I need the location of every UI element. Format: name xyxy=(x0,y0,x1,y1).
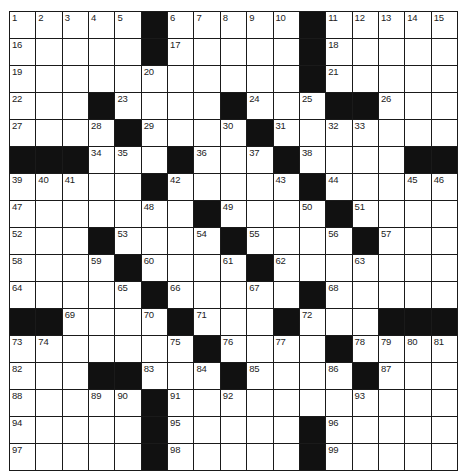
grid-cell[interactable]: 83 xyxy=(142,363,167,389)
grid-cell[interactable] xyxy=(405,201,430,227)
grid-cell[interactable] xyxy=(247,309,272,335)
grid-cell[interactable] xyxy=(168,93,193,119)
grid-cell[interactable] xyxy=(221,66,246,92)
grid-cell[interactable] xyxy=(221,147,246,173)
grid-cell[interactable]: 41 xyxy=(63,174,88,200)
grid-cell[interactable]: 12 xyxy=(353,12,378,38)
grid-cell[interactable]: 54 xyxy=(194,228,219,254)
grid-cell[interactable] xyxy=(326,390,351,416)
grid-cell[interactable] xyxy=(274,66,299,92)
grid-cell[interactable]: 34 xyxy=(89,147,114,173)
grid-cell[interactable]: 75 xyxy=(168,336,193,362)
grid-cell[interactable]: 72 xyxy=(300,309,325,335)
grid-cell[interactable]: 31 xyxy=(274,120,299,146)
grid-cell[interactable]: 11 xyxy=(326,12,351,38)
grid-cell[interactable]: 48 xyxy=(142,201,167,227)
grid-cell[interactable] xyxy=(432,282,457,308)
grid-cell[interactable]: 9 xyxy=(247,12,272,38)
grid-cell[interactable]: 61 xyxy=(221,255,246,281)
grid-cell[interactable] xyxy=(353,444,378,470)
grid-cell[interactable] xyxy=(221,417,246,443)
grid-cell[interactable] xyxy=(405,120,430,146)
grid-cell[interactable] xyxy=(432,228,457,254)
grid-cell[interactable] xyxy=(168,228,193,254)
grid-cell[interactable]: 24 xyxy=(247,93,272,119)
grid-cell[interactable] xyxy=(379,390,404,416)
grid-cell[interactable] xyxy=(36,417,61,443)
grid-cell[interactable]: 70 xyxy=(142,309,167,335)
grid-cell[interactable] xyxy=(326,255,351,281)
grid-cell[interactable] xyxy=(300,336,325,362)
grid-cell[interactable] xyxy=(432,417,457,443)
grid-cell[interactable] xyxy=(379,417,404,443)
grid-cell[interactable]: 76 xyxy=(221,336,246,362)
grid-cell[interactable] xyxy=(405,228,430,254)
grid-cell[interactable]: 8 xyxy=(221,12,246,38)
grid-cell[interactable] xyxy=(432,93,457,119)
grid-cell[interactable]: 37 xyxy=(247,147,272,173)
grid-cell[interactable] xyxy=(405,417,430,443)
grid-cell[interactable] xyxy=(63,66,88,92)
grid-cell[interactable] xyxy=(36,120,61,146)
grid-cell[interactable]: 90 xyxy=(115,390,140,416)
grid-cell[interactable]: 29 xyxy=(142,120,167,146)
grid-cell[interactable] xyxy=(300,228,325,254)
grid-cell[interactable]: 69 xyxy=(63,309,88,335)
grid-cell[interactable] xyxy=(247,174,272,200)
grid-cell[interactable] xyxy=(168,363,193,389)
grid-cell[interactable] xyxy=(274,282,299,308)
grid-cell[interactable] xyxy=(63,201,88,227)
grid-cell[interactable] xyxy=(63,444,88,470)
grid-cell[interactable] xyxy=(221,174,246,200)
grid-cell[interactable] xyxy=(115,66,140,92)
grid-cell[interactable] xyxy=(221,39,246,65)
grid-cell[interactable]: 79 xyxy=(379,336,404,362)
grid-cell[interactable] xyxy=(115,309,140,335)
grid-cell[interactable]: 60 xyxy=(142,255,167,281)
grid-cell[interactable]: 2 xyxy=(36,12,61,38)
grid-cell[interactable]: 30 xyxy=(221,120,246,146)
grid-cell[interactable] xyxy=(405,255,430,281)
grid-cell[interactable]: 13 xyxy=(379,12,404,38)
grid-cell[interactable]: 84 xyxy=(194,363,219,389)
grid-cell[interactable] xyxy=(194,174,219,200)
grid-cell[interactable] xyxy=(142,228,167,254)
grid-cell[interactable] xyxy=(89,174,114,200)
grid-cell[interactable]: 42 xyxy=(168,174,193,200)
grid-cell[interactable] xyxy=(274,363,299,389)
grid-cell[interactable] xyxy=(247,201,272,227)
grid-cell[interactable] xyxy=(247,39,272,65)
grid-cell[interactable] xyxy=(36,282,61,308)
grid-cell[interactable] xyxy=(63,93,88,119)
grid-cell[interactable]: 5 xyxy=(115,12,140,38)
grid-cell[interactable] xyxy=(405,282,430,308)
grid-cell[interactable]: 6 xyxy=(168,12,193,38)
grid-cell[interactable]: 35 xyxy=(115,147,140,173)
grid-cell[interactable] xyxy=(63,228,88,254)
grid-cell[interactable] xyxy=(353,309,378,335)
grid-cell[interactable]: 87 xyxy=(379,363,404,389)
grid-cell[interactable] xyxy=(142,93,167,119)
grid-cell[interactable]: 51 xyxy=(353,201,378,227)
grid-cell[interactable] xyxy=(353,417,378,443)
grid-cell[interactable]: 99 xyxy=(326,444,351,470)
grid-cell[interactable] xyxy=(274,228,299,254)
grid-cell[interactable] xyxy=(405,93,430,119)
grid-cell[interactable]: 52 xyxy=(10,228,35,254)
grid-cell[interactable] xyxy=(221,444,246,470)
grid-cell[interactable]: 92 xyxy=(221,390,246,416)
grid-cell[interactable] xyxy=(432,66,457,92)
grid-cell[interactable]: 7 xyxy=(194,12,219,38)
grid-cell[interactable] xyxy=(194,390,219,416)
grid-cell[interactable]: 47 xyxy=(10,201,35,227)
grid-cell[interactable] xyxy=(405,444,430,470)
grid-cell[interactable] xyxy=(353,147,378,173)
grid-cell[interactable]: 93 xyxy=(353,390,378,416)
grid-cell[interactable]: 97 xyxy=(10,444,35,470)
grid-cell[interactable]: 55 xyxy=(247,228,272,254)
grid-cell[interactable] xyxy=(89,201,114,227)
grid-cell[interactable]: 80 xyxy=(405,336,430,362)
grid-cell[interactable] xyxy=(36,66,61,92)
grid-cell[interactable] xyxy=(353,282,378,308)
grid-cell[interactable] xyxy=(274,390,299,416)
